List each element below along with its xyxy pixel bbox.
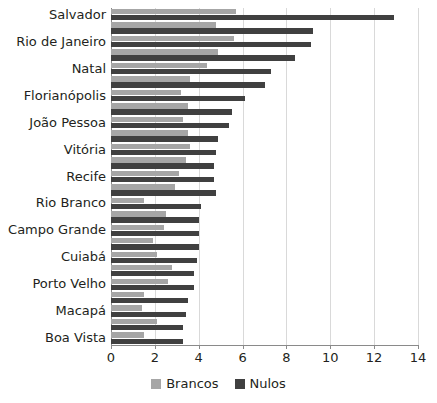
bar-brancos bbox=[111, 90, 181, 95]
bar-row bbox=[111, 170, 418, 183]
bar-nulos bbox=[111, 82, 265, 87]
bar-nulos bbox=[111, 325, 183, 330]
bar-nulos bbox=[111, 136, 218, 141]
x-tick-mark bbox=[111, 345, 112, 349]
y-tick-label: Cuiabá bbox=[1, 250, 106, 264]
bar-brancos bbox=[111, 319, 157, 324]
gridline bbox=[418, 8, 419, 345]
bar-row bbox=[111, 291, 418, 304]
bar-nulos bbox=[111, 15, 394, 20]
bar-row bbox=[111, 89, 418, 102]
bar-nulos bbox=[111, 204, 201, 209]
legend-item-nulos: Nulos bbox=[235, 376, 286, 391]
bar-nulos bbox=[111, 96, 245, 101]
bar-brancos bbox=[111, 103, 188, 108]
x-tick-mark bbox=[286, 345, 287, 349]
bar-row bbox=[111, 156, 418, 169]
bar-row bbox=[111, 129, 418, 142]
bar-row bbox=[111, 75, 418, 88]
y-tick-label: Rio de Janeiro bbox=[1, 35, 106, 49]
bar-row bbox=[111, 183, 418, 196]
y-tick-label: Boa Vista bbox=[1, 331, 106, 345]
y-tick-label: Vitória bbox=[1, 143, 106, 157]
bar-row bbox=[111, 197, 418, 210]
bar-brancos bbox=[111, 36, 234, 41]
x-tick-mark bbox=[374, 345, 375, 349]
plot-area bbox=[111, 8, 418, 345]
x-tick-mark bbox=[199, 345, 200, 349]
bar-brancos bbox=[111, 279, 168, 284]
y-tick-label: Porto Velho bbox=[1, 277, 106, 291]
x-tick-mark bbox=[418, 345, 419, 349]
bar-row bbox=[111, 48, 418, 61]
x-tick-label: 14 bbox=[398, 350, 437, 365]
bar-row bbox=[111, 35, 418, 48]
bar-row bbox=[111, 224, 418, 237]
bar-nulos bbox=[111, 258, 197, 263]
nulos-swatch-icon bbox=[235, 379, 245, 389]
bar-nulos bbox=[111, 123, 229, 128]
bar-nulos bbox=[111, 150, 216, 155]
bar-row bbox=[111, 210, 418, 223]
bar-nulos bbox=[111, 271, 194, 276]
bar-brancos bbox=[111, 184, 175, 189]
bar-row bbox=[111, 318, 418, 331]
bar-brancos bbox=[111, 171, 179, 176]
bar-row bbox=[111, 264, 418, 277]
bar-brancos bbox=[111, 63, 207, 68]
bar-row bbox=[111, 102, 418, 115]
bar-nulos bbox=[111, 231, 199, 236]
x-tick-mark bbox=[155, 345, 156, 349]
y-tick-label: Florianópolis bbox=[1, 89, 106, 103]
bar-row bbox=[111, 21, 418, 34]
x-tick-label: 2 bbox=[135, 350, 175, 365]
x-tick-mark bbox=[243, 345, 244, 349]
y-tick-label: Rio Branco bbox=[1, 196, 106, 210]
x-tick-label: 12 bbox=[354, 350, 394, 365]
legend-item-brancos: Brancos bbox=[151, 376, 218, 391]
y-tick-label: Natal bbox=[1, 62, 106, 76]
bar-nulos bbox=[111, 69, 271, 74]
y-axis-tick-labels: SalvadorRio de JaneiroNatalFlorianópolis… bbox=[0, 8, 106, 345]
bar-brancos bbox=[111, 238, 153, 243]
bar-nulos bbox=[111, 42, 311, 47]
bar-brancos bbox=[111, 198, 144, 203]
bar-brancos bbox=[111, 157, 186, 162]
bar-nulos bbox=[111, 109, 232, 114]
bar-row bbox=[111, 278, 418, 291]
y-tick-label: João Pessoa bbox=[1, 116, 106, 130]
x-tick-label: 10 bbox=[310, 350, 350, 365]
x-tick-label: 6 bbox=[223, 350, 263, 365]
brancos-swatch-icon bbox=[151, 379, 161, 389]
x-tick-label: 0 bbox=[91, 350, 131, 365]
bar-brancos bbox=[111, 130, 188, 135]
bar-brancos bbox=[111, 265, 172, 270]
bar-row bbox=[111, 8, 418, 21]
legend-label-nulos: Nulos bbox=[250, 376, 286, 391]
bar-brancos bbox=[111, 305, 142, 310]
bar-nulos bbox=[111, 28, 313, 33]
bar-brancos bbox=[111, 211, 166, 216]
legend-label-brancos: Brancos bbox=[166, 376, 218, 391]
bar-brancos bbox=[111, 76, 190, 81]
y-tick-label: Campo Grande bbox=[1, 223, 106, 237]
bar-row bbox=[111, 143, 418, 156]
bar-nulos bbox=[111, 55, 295, 60]
x-tick-mark bbox=[330, 345, 331, 349]
x-axis-line bbox=[111, 345, 418, 346]
y-tick-label: Recife bbox=[1, 170, 106, 184]
bar-row bbox=[111, 332, 418, 345]
bar-row bbox=[111, 116, 418, 129]
bar-nulos bbox=[111, 244, 199, 249]
bar-row bbox=[111, 251, 418, 264]
bar-row bbox=[111, 62, 418, 75]
bar-brancos bbox=[111, 292, 144, 297]
bar-nulos bbox=[111, 285, 194, 290]
bar-nulos bbox=[111, 312, 186, 317]
bar-brancos bbox=[111, 225, 164, 230]
bar-brancos bbox=[111, 144, 190, 149]
chart-legend: Brancos Nulos bbox=[0, 376, 437, 391]
x-tick-label: 4 bbox=[179, 350, 219, 365]
bar-nulos bbox=[111, 163, 214, 168]
bar-row bbox=[111, 305, 418, 318]
